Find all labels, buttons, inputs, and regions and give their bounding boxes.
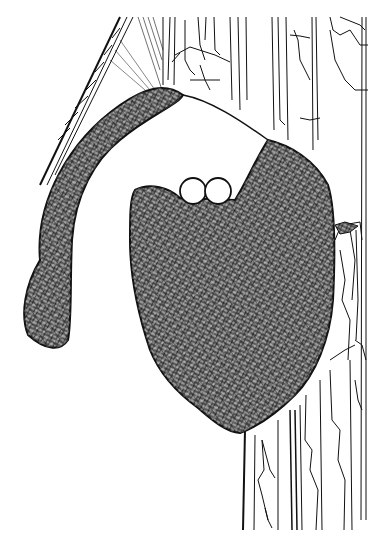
attachment-tuft [335, 222, 358, 234]
nest-top-outline [183, 95, 268, 140]
nest-illustration [0, 0, 384, 553]
egg-left [180, 178, 206, 204]
egg-right [205, 178, 231, 204]
